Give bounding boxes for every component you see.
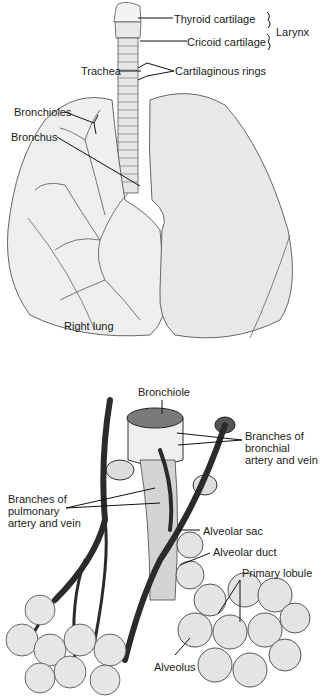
alveolar-cluster-left xyxy=(6,595,126,695)
label-thyroid-cartilage: Thyroid cartilage xyxy=(174,13,255,25)
trachea-shape xyxy=(118,38,138,193)
label-trachea: Trachea xyxy=(81,65,121,77)
bronchiole-branch-left xyxy=(106,460,134,480)
left-lung-shape xyxy=(149,94,292,338)
label-line: artery and vein xyxy=(245,454,318,466)
label-line: Branches of xyxy=(8,493,81,505)
label-branches-pulmonary: Branches of pulmonary artery and vein xyxy=(8,493,81,529)
thyroid-cartilage-shape xyxy=(114,2,141,22)
label-bronchioles: Bronchioles xyxy=(14,106,71,118)
label-right-lung: Right lung xyxy=(64,320,114,332)
label-bronchiole: Bronchiole xyxy=(138,386,190,398)
bronchiole-lumen xyxy=(127,408,183,428)
label-line: artery and vein xyxy=(8,517,81,529)
label-alveolus: Alveolus xyxy=(154,661,196,673)
respiratory-diagram xyxy=(0,0,325,699)
cricoid-cartilage-shape xyxy=(115,22,141,38)
label-cartilaginous-rings: Cartilaginous rings xyxy=(175,65,266,77)
label-bronchus: Bronchus xyxy=(11,131,57,143)
label-alveolar-duct: Alveolar duct xyxy=(213,546,277,558)
label-line: pulmonary xyxy=(8,505,81,517)
label-primary-lobule: Primary lobule xyxy=(242,567,312,579)
label-line: Branches of xyxy=(245,430,318,442)
label-branches-bronchial: Branches of bronchial artery and vein xyxy=(245,430,318,466)
label-cricoid-cartilage: Cricoid cartilage xyxy=(187,36,266,48)
label-alveolar-sac: Alveolar sac xyxy=(203,525,263,537)
label-line: bronchial xyxy=(245,442,318,454)
label-larynx: Larynx xyxy=(276,26,309,38)
